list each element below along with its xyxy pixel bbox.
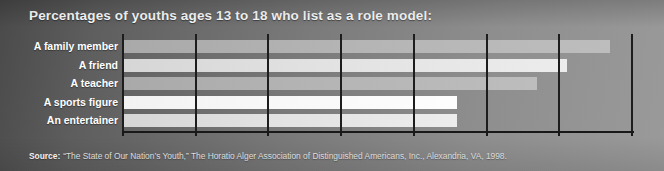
tick-mark-20 (267, 131, 269, 136)
gridline-60 (558, 34, 560, 131)
tick-mark-70 (631, 131, 633, 136)
source-line: Source:“The State of Our Nation’s Youth,… (29, 151, 656, 161)
chart-figure: Percentages of youths ages 13 to 18 who … (0, 0, 664, 171)
x-axis-line (122, 131, 634, 133)
category-label: A sports figure (5, 96, 123, 108)
gridline-30 (340, 34, 342, 131)
gridline-40 (413, 34, 415, 131)
bar (123, 114, 457, 127)
category-label: A teacher (5, 77, 123, 89)
category-label: A family member (5, 40, 123, 52)
bar-row (123, 57, 632, 76)
plot-area: 0%10%20%30%40%50%60%70% A family memberA… (123, 38, 632, 131)
source-text: “The State of Our Nation’s Youth,” The H… (63, 151, 507, 161)
gridline-70 (631, 34, 633, 131)
bar-row (123, 112, 632, 131)
bar-row (123, 94, 632, 113)
bar-row (123, 38, 632, 57)
tick-mark-40 (413, 131, 415, 136)
chart-title: Percentages of youths ages 13 to 18 who … (29, 8, 629, 23)
source-label: Source: (29, 151, 60, 161)
category-label: An entertainer (5, 114, 123, 126)
gridline-20 (267, 34, 269, 131)
tick-mark-50 (486, 131, 488, 136)
category-label: A friend (5, 59, 123, 71)
tick-mark-0 (122, 131, 124, 136)
tick-mark-10 (195, 131, 197, 136)
gridline-50 (486, 34, 488, 131)
gridline-0 (122, 34, 124, 131)
tick-mark-60 (558, 131, 560, 136)
tick-mark-30 (340, 131, 342, 136)
bar (123, 96, 457, 109)
gridline-10 (195, 34, 197, 131)
bar-row (123, 75, 632, 94)
bar (123, 77, 537, 90)
bar (123, 59, 567, 72)
